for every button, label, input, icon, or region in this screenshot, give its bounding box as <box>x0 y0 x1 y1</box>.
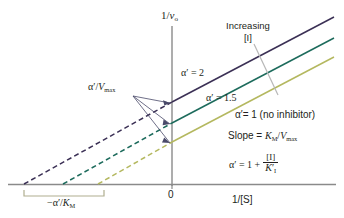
formula-fraction: [I] K′I <box>263 153 278 175</box>
curve-label-alpha-1-5: α′ = 1.5 <box>206 93 237 104</box>
increasing-line-1: Increasing <box>226 20 270 32</box>
lineweaver-burk-figure: 1/vo Increasing [I] α′ = 2 α′ = 1.5 α′= … <box>0 0 344 218</box>
x-intercept-k: K <box>63 197 70 208</box>
x-intercept-annotation: −α′/KM <box>47 198 75 209</box>
dashed-line-alpha-1 <box>98 142 172 184</box>
alpha-prime-formula: α′ = 1 + [I] K′I <box>229 154 278 176</box>
formula-numerator: [I] <box>264 153 277 162</box>
formula-denominator: K′I <box>263 163 278 174</box>
formula-denominator-sub: I <box>274 167 276 174</box>
x-intercept-alpha: α′ <box>53 197 60 208</box>
slope-k: K <box>265 130 272 141</box>
formula-denominator-k: K <box>265 162 272 173</box>
increasing-line-2: [I] <box>226 32 270 44</box>
slope-v-sub: max <box>286 135 297 142</box>
increasing-inhibitor-annotation: Increasing [I] <box>226 20 270 45</box>
slope-prefix: Slope = <box>228 130 265 141</box>
origin-label: 0 <box>168 190 174 201</box>
dashed-line-alpha-2 <box>24 102 172 184</box>
curve-label-alpha-2: α′ = 2 <box>181 68 204 79</box>
y-intercept-annotation: α′/Vmax <box>88 82 115 93</box>
y-axis-label: 1/vo <box>161 10 178 23</box>
x-intercept-bracket <box>24 190 104 196</box>
x-axis-label: 1/[S] <box>232 195 253 206</box>
slope-annotation: Slope = KM/Vmax <box>228 131 297 142</box>
x-intercept-k-sub: M <box>70 202 76 209</box>
curve-label-alpha-1: α′= 1 (no inhibitor) <box>235 110 315 121</box>
y-axis-label-prefix: 1/ <box>161 9 170 21</box>
y-axis-label-sub: o <box>174 15 178 23</box>
y-intercept-v-sub: max <box>104 86 115 93</box>
formula-lead: α′ = 1 + <box>229 160 260 171</box>
